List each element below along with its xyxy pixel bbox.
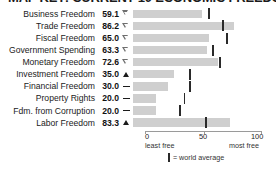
trend-down-icon — [119, 10, 133, 18]
row-label: Investment Freedom — [0, 70, 98, 79]
world-average-marker — [184, 93, 186, 104]
row-label: Fdm. from Corruption — [0, 107, 98, 116]
trend-down-icon — [119, 34, 133, 42]
chart-row: Trade Freedom86.2 — [0, 20, 279, 32]
chart-row: Fdm. from Corruption20.0 — [0, 105, 279, 117]
chart-row: Government Spending63.3 — [0, 44, 279, 56]
row-value: 86.2 — [98, 22, 119, 31]
trend-up-icon — [119, 119, 133, 127]
value-bar — [133, 22, 234, 30]
row-value: 83.3 — [98, 119, 119, 128]
row-plot — [133, 32, 279, 44]
row-value: 20.0 — [98, 94, 119, 103]
world-average-marker — [226, 33, 228, 44]
row-label: Labor Freedom — [0, 119, 98, 128]
trend-flat-icon — [119, 95, 133, 103]
row-value: 63.3 — [98, 46, 119, 55]
world-average-marker — [208, 8, 210, 19]
economic-freedoms-chart: MAP KEY: CURRENT 10 ECONOMIC FREEDOMS Bu… — [0, 0, 279, 169]
row-plot — [133, 117, 279, 129]
world-average-marker — [212, 45, 214, 56]
row-label: Trade Freedom — [0, 22, 98, 31]
value-bar — [133, 58, 218, 66]
row-value: 20.0 — [98, 107, 119, 116]
x-axis-label-0: 0 — [145, 133, 149, 140]
row-plot — [133, 20, 279, 32]
trend-up-icon — [119, 71, 133, 79]
value-bar — [133, 34, 209, 42]
row-label: Monetary Freedom — [0, 58, 98, 67]
row-value: 72.6 — [98, 58, 119, 67]
row-value: 65.0 — [98, 34, 119, 43]
value-bar — [133, 118, 230, 126]
value-bar — [133, 46, 207, 54]
world-average-marker — [189, 81, 191, 92]
x-axis-label-100: 100 — [251, 133, 263, 140]
row-plot — [133, 56, 279, 68]
x-axis-label-50: 50 — [199, 133, 207, 140]
chart-title: MAP KEY: CURRENT 10 ECONOMIC FREEDOMS — [8, 0, 276, 5]
value-bar — [133, 10, 202, 18]
row-plot — [133, 105, 279, 117]
row-plot — [133, 81, 279, 93]
row-label: Fiscal Freedom — [0, 34, 98, 43]
world-average-marker — [205, 117, 207, 128]
trend-down-icon — [119, 58, 133, 66]
trend-down-icon — [119, 22, 133, 30]
legend-label-world-average: = world average — [173, 154, 224, 161]
chart-rows: Business Freedom59.1Trade Freedom86.2Fis… — [0, 8, 279, 129]
world-average-marker — [222, 20, 224, 31]
row-label: Financial Freedom — [0, 82, 98, 91]
row-value: 30.0 — [98, 82, 119, 91]
chart-row: Monetary Freedom72.6 — [0, 56, 279, 68]
chart-row: Investment Freedom35.0 — [0, 68, 279, 80]
chart-legend: = world average — [168, 153, 224, 162]
chart-row: Property Rights20.0 — [0, 93, 279, 105]
row-label: Property Rights — [0, 94, 98, 103]
chart-row: Labor Freedom83.3 — [0, 117, 279, 129]
row-label: Business Freedom — [0, 10, 98, 19]
row-value: 59.1 — [98, 10, 119, 19]
world-average-marker — [179, 105, 181, 116]
world-average-marker-icon — [168, 153, 170, 162]
row-plot — [133, 68, 279, 80]
x-axis-sublabel-least-free: least free — [145, 142, 175, 149]
world-average-marker — [189, 69, 191, 80]
chart-row: Business Freedom59.1 — [0, 8, 279, 20]
row-plot — [133, 8, 279, 20]
trend-flat-icon — [119, 83, 133, 91]
chart-row: Fiscal Freedom65.0 — [0, 32, 279, 44]
value-bar — [133, 106, 156, 114]
row-plot — [133, 93, 279, 105]
row-value: 35.0 — [98, 70, 119, 79]
row-label: Government Spending — [0, 46, 98, 55]
value-bar — [133, 94, 156, 102]
trend-down-icon — [119, 46, 133, 54]
row-plot — [133, 44, 279, 56]
trend-flat-icon — [119, 107, 133, 115]
value-bar — [133, 82, 168, 90]
value-bar — [133, 70, 174, 78]
chart-row: Financial Freedom30.0 — [0, 81, 279, 93]
world-average-marker — [219, 57, 221, 68]
x-axis-sublabel-most-free: most free — [229, 142, 259, 149]
